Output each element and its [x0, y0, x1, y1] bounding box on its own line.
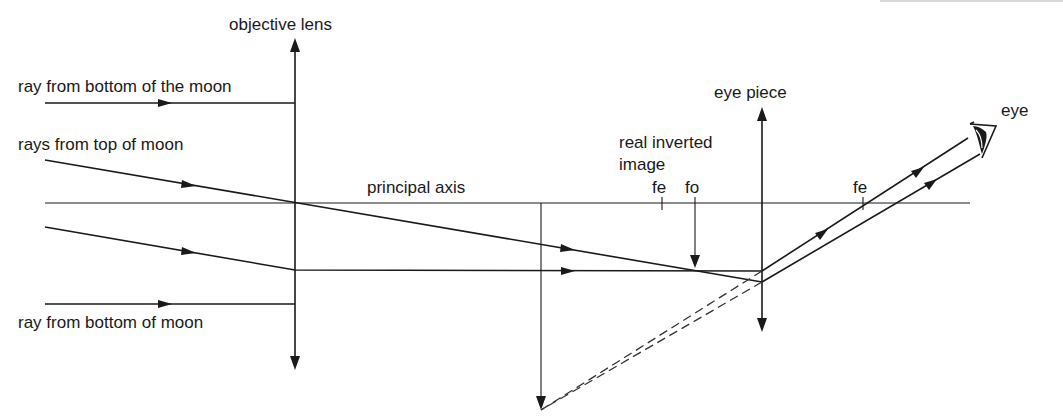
eye-piece-label: eye piece — [714, 83, 787, 102]
arrow-down-icon — [690, 255, 700, 268]
real-inverted-image-arrow — [690, 197, 700, 268]
objective-lens — [290, 38, 300, 370]
fe-right-label: fe — [853, 178, 867, 197]
ray-bottom-of-moon-label: ray from bottom of moon — [18, 313, 203, 332]
arrow-up-right-icon — [924, 179, 937, 190]
arrow-right-icon — [561, 267, 575, 275]
ray-top-of-moon-2 — [45, 227, 762, 275]
arrow-up-right-icon — [815, 229, 828, 240]
ray-bottom-of-the-moon-label: ray from bottom of the moon — [18, 77, 232, 96]
emergent-ray-upper — [762, 138, 968, 271]
arrow-right-icon — [181, 247, 196, 255]
arrow-up-right-icon — [911, 167, 924, 178]
arrow-up-icon — [290, 38, 300, 52]
arrow-up-icon — [757, 107, 767, 121]
emergent-ray-lower — [762, 154, 980, 282]
virtual-ray-extensions — [541, 271, 762, 410]
virtual-image-arrow — [536, 203, 546, 410]
telescope-ray-diagram: objective lens ray from bottom of the mo… — [0, 0, 1063, 420]
principal-axis-label: principal axis — [367, 178, 465, 197]
eye-label: eye — [1001, 101, 1028, 120]
ray-bottom-of-moon-lower — [45, 300, 295, 308]
fe-left-label: fe — [652, 178, 666, 197]
arrow-right-icon — [158, 99, 172, 107]
eye-icon — [970, 122, 996, 158]
arrow-right-icon — [181, 180, 196, 188]
arrow-down-icon — [290, 356, 300, 370]
objective-lens-label: objective lens — [229, 15, 332, 34]
arrow-right-icon — [560, 244, 575, 252]
rays-top-of-moon-label: rays from top of moon — [18, 135, 183, 154]
real-inverted-label-line1: real inverted — [619, 133, 713, 152]
arrow-down-icon — [757, 318, 767, 332]
arrow-right-icon — [158, 300, 172, 308]
fo-label: fo — [685, 178, 699, 197]
ray-bottom-of-moon-upper — [45, 99, 295, 107]
eye-piece-lens — [757, 107, 767, 332]
real-inverted-label-line2: image — [619, 155, 665, 174]
